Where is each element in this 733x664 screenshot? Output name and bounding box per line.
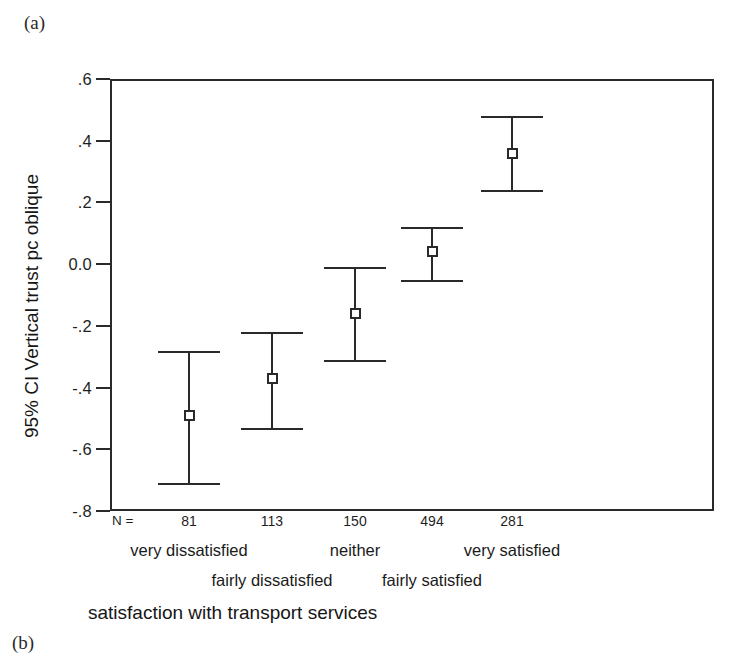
mean-marker (507, 148, 518, 159)
x-category-label: very dissatisfied (130, 541, 247, 560)
mean-marker (267, 373, 278, 384)
y-tick-mark (96, 325, 110, 327)
x-category-label: fairly satisfied (382, 571, 482, 590)
error-bar-lower-cap (481, 190, 543, 192)
error-bar-chart: .6.4.20.0-.2-.4-.6-.8 95% CI Vertical tr… (0, 0, 733, 664)
x-category-label: neither (330, 541, 380, 560)
y-tick-mark (96, 140, 110, 142)
y-tick-mark (96, 387, 110, 389)
error-bar-group (232, 326, 312, 434)
mean-marker (350, 308, 361, 319)
y-tick-label: -.2 (46, 316, 92, 335)
y-tick-mark (96, 448, 110, 450)
x-category-label: fairly dissatisfied (211, 571, 332, 590)
mean-marker (427, 246, 438, 257)
error-bar-lower-cap (158, 483, 220, 485)
n-equals-label: N = (112, 513, 133, 528)
x-axis-title: satisfaction with transport services (88, 602, 377, 624)
error-bar-lower-cap (241, 428, 303, 430)
y-tick-label: -.4 (46, 378, 92, 397)
error-bar-upper-cap (158, 351, 220, 353)
error-bar-lower-cap (401, 280, 463, 282)
y-tick-label: .4 (46, 131, 92, 150)
y-tick-label: -.8 (46, 502, 92, 521)
error-bar-upper-cap (481, 116, 543, 118)
y-tick-label: 0.0 (46, 255, 92, 274)
x-category-label: very satisfied (464, 541, 560, 560)
y-tick-mark (96, 510, 110, 512)
error-bar-upper-cap (241, 332, 303, 334)
y-tick-mark (96, 263, 110, 265)
error-bar-group (315, 261, 395, 366)
mean-marker (184, 410, 195, 421)
y-tick-label: .2 (46, 193, 92, 212)
y-tick-mark (96, 201, 110, 203)
error-bar-upper-cap (401, 227, 463, 229)
n-value: 113 (261, 513, 283, 529)
y-tick-label: -.6 (46, 440, 92, 459)
n-value: 494 (420, 513, 443, 529)
n-value: 81 (181, 513, 197, 529)
error-bar-group (149, 345, 229, 490)
error-bar-upper-cap (324, 267, 386, 269)
error-bar-group (392, 221, 472, 285)
error-bar-lower-cap (324, 360, 386, 362)
y-axis-title: 95% CI Vertical trust pc oblique (21, 106, 43, 506)
n-value: 281 (500, 513, 523, 529)
n-value: 150 (343, 513, 366, 529)
y-tick-mark (96, 78, 110, 80)
error-bar-group (472, 110, 552, 196)
y-tick-label: .6 (46, 70, 92, 89)
